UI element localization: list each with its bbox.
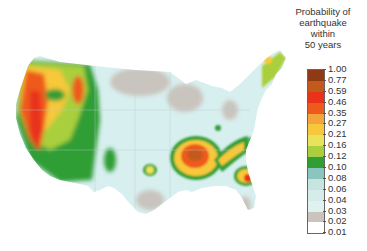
legend-label: 0.46 bbox=[323, 97, 347, 108]
legend-swatch bbox=[308, 190, 324, 201]
legend-label: 0.01 bbox=[323, 227, 347, 238]
legend-title-line: 50 years bbox=[282, 39, 364, 50]
legend-swatch bbox=[308, 103, 324, 114]
legend-swatch bbox=[308, 146, 324, 157]
legend-swatch bbox=[308, 124, 324, 135]
legend-title: Probability of earthquake within 50 year… bbox=[282, 6, 364, 50]
legend-swatch bbox=[308, 92, 324, 103]
legend-swatch bbox=[308, 114, 324, 125]
legend-swatch bbox=[308, 201, 324, 212]
legend-labels: 1.000.770.590.460.350.270.210.160.120.10… bbox=[323, 64, 347, 238]
legend-swatch bbox=[308, 168, 324, 179]
legend-title-line: earthquake bbox=[282, 17, 364, 28]
legend-swatch bbox=[308, 157, 324, 168]
legend-swatch bbox=[308, 135, 324, 146]
legend-title-line: within bbox=[282, 28, 364, 39]
legend-swatch bbox=[308, 81, 324, 92]
legend-swatch bbox=[308, 179, 324, 190]
legend-label: 0.04 bbox=[323, 195, 347, 206]
legend-swatch bbox=[308, 212, 324, 223]
map-fill bbox=[0, 40, 300, 230]
legend-swatch bbox=[308, 70, 324, 81]
legend-swatch bbox=[308, 222, 324, 233]
legend-title-line: Probability of bbox=[282, 6, 364, 17]
